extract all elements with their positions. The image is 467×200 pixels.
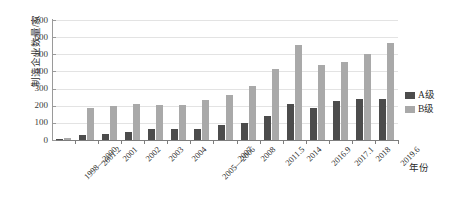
x-axis-line <box>52 140 399 141</box>
plot-area <box>52 20 398 140</box>
bar-group <box>241 20 256 140</box>
bar-series-b[interactable] <box>295 45 302 140</box>
bar-series-a[interactable] <box>333 101 340 140</box>
bar-series-b[interactable] <box>318 65 325 140</box>
bar-group <box>264 20 279 140</box>
x-tick-mark <box>167 140 168 144</box>
x-tick-mark <box>375 140 376 144</box>
x-tick-label: 2008 <box>259 145 277 163</box>
x-tick-mark <box>190 140 191 144</box>
bar-series-a[interactable] <box>379 99 386 140</box>
bar-series-a[interactable] <box>218 125 225 140</box>
bar-series-a[interactable] <box>241 123 248 140</box>
bar-series-b[interactable] <box>156 105 163 140</box>
bar-series-a[interactable] <box>356 99 363 140</box>
bar-group <box>125 20 140 140</box>
y-tick-mark <box>52 140 56 141</box>
bar-series-b[interactable] <box>133 104 140 140</box>
bar-series-a[interactable] <box>171 129 178 140</box>
bar-group <box>333 20 348 140</box>
bar-series-b[interactable] <box>64 138 71 140</box>
y-tick-mark <box>52 123 56 124</box>
y-tick-label: 200 <box>18 101 48 110</box>
x-tick-mark <box>144 140 145 144</box>
x-tick-mark <box>352 140 353 144</box>
x-tick-mark <box>98 140 99 144</box>
x-tick-label: 2016.9 <box>330 145 353 168</box>
bar-series-a[interactable] <box>56 139 63 140</box>
x-tick-label: 2001.2 <box>99 145 122 168</box>
x-tick-label: 2001 <box>121 145 139 163</box>
legend-item-a[interactable]: A级 <box>405 88 435 102</box>
cropped-text-strip <box>0 0 467 9</box>
x-tick-label: 2004 <box>190 145 208 163</box>
bar-group <box>102 20 117 140</box>
x-tick-label: 2014 <box>305 145 323 163</box>
bar-group <box>171 20 186 140</box>
y-tick-label: 0 <box>18 136 48 145</box>
x-tick-mark <box>237 140 238 144</box>
x-axis-title: 年份 <box>409 160 429 174</box>
bar-group <box>148 20 163 140</box>
bar-series-a[interactable] <box>310 108 317 140</box>
bar-series-a[interactable] <box>264 116 271 141</box>
bar-series-a[interactable] <box>79 135 86 140</box>
legend-label-b: B级 <box>418 104 434 114</box>
x-tick-label: 2018 <box>374 145 392 163</box>
bar-series-a[interactable] <box>125 132 132 140</box>
x-tick-mark <box>260 140 261 144</box>
y-tick-mark <box>52 89 56 90</box>
legend-swatch-a-icon <box>405 92 415 99</box>
x-tick-label: 2003 <box>167 145 185 163</box>
x-tick-mark <box>213 140 214 144</box>
y-tick-mark <box>52 20 56 21</box>
legend-swatch-b-icon <box>405 106 415 113</box>
bar-group <box>194 20 209 140</box>
bar-series-b[interactable] <box>87 108 94 140</box>
bar-chart-figure: 7006005004003002001000 制造企业数量/家 年份 A级 B级… <box>0 0 467 200</box>
bar-group <box>356 20 371 140</box>
y-tick-mark <box>52 54 56 55</box>
bar-series-b[interactable] <box>179 105 186 140</box>
bar-group <box>56 20 71 140</box>
chart-legend: A级 B级 <box>405 88 435 116</box>
y-tick-mark <box>52 106 56 107</box>
bar-series-b[interactable] <box>202 100 209 140</box>
bar-group <box>79 20 94 140</box>
bar-series-b[interactable] <box>272 69 279 140</box>
x-tick-mark <box>306 140 307 144</box>
y-tick-mark <box>52 37 56 38</box>
y-axis-title: 制造企业数量/家 <box>28 12 42 90</box>
bar-group <box>310 20 325 140</box>
x-tick-mark <box>283 140 284 144</box>
x-tick-mark <box>398 140 399 144</box>
bar-series-a[interactable] <box>194 129 201 140</box>
y-tick-label: 100 <box>18 118 48 127</box>
x-tick-mark <box>329 140 330 144</box>
x-tick-mark <box>121 140 122 144</box>
bar-group <box>218 20 233 140</box>
bar-series-b[interactable] <box>249 86 256 141</box>
bar-group <box>379 20 394 140</box>
bar-series-b[interactable] <box>387 43 394 140</box>
bar-series-a[interactable] <box>148 129 155 140</box>
x-tick-mark <box>75 140 76 144</box>
y-tick-mark <box>52 71 56 72</box>
bar-series-a[interactable] <box>102 134 109 141</box>
bar-series-b[interactable] <box>110 106 117 140</box>
x-tick-label: 2002 <box>144 145 162 163</box>
x-tick-label: 2011.5 <box>284 145 307 168</box>
legend-label-a: A级 <box>418 90 435 100</box>
bar-series-b[interactable] <box>341 62 348 140</box>
bar-series-b[interactable] <box>226 95 233 140</box>
bar-series-a[interactable] <box>287 104 294 140</box>
bar-group <box>287 20 302 140</box>
legend-item-b[interactable]: B级 <box>405 102 435 116</box>
bar-series-b[interactable] <box>364 54 371 140</box>
